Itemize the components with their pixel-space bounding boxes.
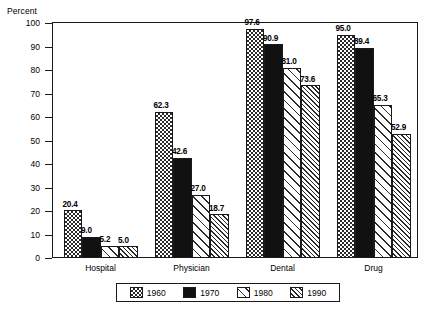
legend-label: 1990 [307, 288, 326, 298]
legend-swatch-icon [237, 287, 250, 298]
bar[interactable] [301, 85, 320, 258]
chart-legend: 1960197019801990 [116, 283, 340, 302]
y-axis-title: Percent [7, 6, 37, 16]
y-axis-tick [45, 211, 52, 212]
y-axis-tick [45, 188, 52, 189]
y-axis-tick [45, 117, 52, 118]
bar-slot: 27.0 [192, 23, 211, 258]
bar[interactable] [155, 112, 174, 258]
bar[interactable] [337, 35, 356, 258]
bar-group: 20.49.05.25.0 [64, 23, 138, 258]
x-axis-category-label: Physician [173, 263, 209, 273]
bar-slot: 62.3 [155, 23, 174, 258]
bar[interactable] [210, 214, 229, 258]
bar-slot: 42.6 [173, 23, 192, 258]
y-axis-tick [45, 141, 52, 142]
y-axis-tick-label: 40 [8, 159, 40, 169]
bar[interactable] [374, 105, 393, 258]
bar[interactable] [192, 195, 211, 258]
bar-chart: Percent 0102030405060708090100 20.49.05.… [0, 0, 438, 309]
bar-slot: 73.6 [301, 23, 320, 258]
y-axis-tick-label: 0 [8, 253, 40, 263]
y-axis-tick-label: 50 [8, 136, 40, 146]
y-axis-tick-label: 60 [8, 112, 40, 122]
y-axis-tick [45, 47, 52, 48]
y-axis-tick-label: 80 [8, 65, 40, 75]
bar[interactable] [173, 158, 192, 258]
bar-slot: 95.0 [337, 23, 356, 258]
y-axis-tick-label: 70 [8, 89, 40, 99]
bar-value-label: 42.6 [172, 147, 187, 156]
x-axis-category-label: Hospital [85, 263, 116, 273]
bar-value-label: 90.9 [263, 34, 278, 43]
bar-group: 97.690.981.073.6 [246, 23, 320, 258]
bar-slot: 81.0 [283, 23, 302, 258]
y-axis-tick [45, 94, 52, 95]
bar-slot: 65.3 [374, 23, 393, 258]
y-axis-tick [45, 164, 52, 165]
bar-value-label: 89.4 [354, 37, 369, 46]
legend-item[interactable]: 1980 [237, 287, 273, 298]
bar-slot: 9.0 [82, 23, 101, 258]
bar[interactable] [392, 134, 411, 258]
y-axis-tick-label: 30 [8, 183, 40, 193]
bar-slot: 90.9 [264, 23, 283, 258]
legend-swatch-icon [290, 287, 303, 298]
bar-slot: 5.0 [119, 23, 138, 258]
bar-value-label: 27.0 [191, 184, 206, 193]
bars-layer: 20.49.05.25.062.342.627.018.797.690.981.… [53, 23, 417, 258]
bar-value-label: 5.0 [118, 236, 129, 245]
bar[interactable] [264, 44, 283, 258]
bar-slot: 5.2 [101, 23, 120, 258]
bar-slot: 52.9 [392, 23, 411, 258]
legend-label: 1980 [254, 288, 273, 298]
bar-slot: 20.4 [64, 23, 83, 258]
bar-value-label: 18.7 [209, 204, 224, 213]
bar[interactable] [246, 29, 265, 258]
bar-value-label: 5.2 [100, 235, 111, 244]
x-axis-category-label: Drug [364, 263, 382, 273]
legend-item[interactable]: 1970 [183, 287, 219, 298]
y-axis-tick-label: 90 [8, 42, 40, 52]
bar[interactable] [355, 48, 374, 258]
x-axis-category-label: Dental [270, 263, 295, 273]
bar-value-label: 20.4 [63, 200, 78, 209]
bar-value-label: 97.6 [245, 18, 260, 27]
y-axis-tick [45, 70, 52, 71]
y-axis-tick-label: 10 [8, 230, 40, 240]
bar-value-label: 73.6 [300, 75, 315, 84]
legend-label: 1970 [200, 288, 219, 298]
bar-group: 95.089.465.352.9 [337, 23, 411, 258]
y-axis-tick [45, 258, 52, 259]
legend-swatch-icon [130, 287, 143, 298]
bar-value-label: 9.0 [81, 226, 92, 235]
legend-swatch-icon [183, 287, 196, 298]
bar-slot: 89.4 [355, 23, 374, 258]
bar-value-label: 95.0 [336, 24, 351, 33]
bar-group: 62.342.627.018.7 [155, 23, 229, 258]
bar-value-label: 81.0 [282, 57, 297, 66]
bar[interactable] [101, 246, 120, 258]
y-axis-tick [45, 235, 52, 236]
legend-item[interactable]: 1960 [130, 287, 166, 298]
bar-value-label: 62.3 [154, 101, 169, 110]
y-axis-tick-label: 20 [8, 206, 40, 216]
bar-slot: 18.7 [210, 23, 229, 258]
bar[interactable] [119, 246, 138, 258]
bar[interactable] [82, 237, 101, 258]
y-axis-tick-label: 100 [8, 18, 40, 28]
bar-slot: 97.6 [246, 23, 265, 258]
bar[interactable] [283, 68, 302, 258]
legend-item[interactable]: 1990 [290, 287, 326, 298]
bar[interactable] [64, 210, 83, 258]
bar-value-label: 65.3 [373, 94, 388, 103]
legend-label: 1960 [147, 288, 166, 298]
bar-value-label: 52.9 [391, 123, 406, 132]
y-axis-tick [45, 23, 52, 24]
